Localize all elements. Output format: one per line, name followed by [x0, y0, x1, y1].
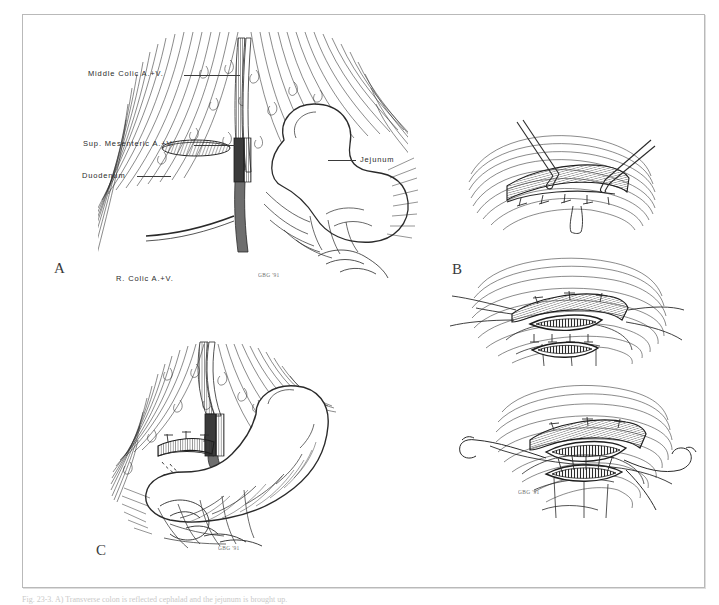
figure-caption: Fig. 23-3. A) Transverse colon is reflec… — [22, 595, 682, 605]
leader-middle-colic — [184, 75, 240, 76]
artist-signature-panel-b: GBG '91 — [518, 489, 540, 494]
jejunum-loop — [272, 104, 408, 242]
panel-b-vignette-bottom — [450, 378, 700, 543]
right-colic-vessels — [146, 216, 234, 241]
seromuscular-suture-line — [507, 165, 629, 202]
leader-duodenum — [137, 176, 171, 177]
panel-letter-c: C — [96, 543, 106, 558]
anastomosis-line-c — [158, 439, 214, 456]
leader-sup-mesenteric — [194, 145, 242, 146]
label-jejunum: Jejunum — [360, 156, 394, 164]
label-right-colic-vessels: R. Colic A.+V. — [116, 275, 174, 283]
small-bowel-coils — [318, 250, 388, 278]
leader-jejunum — [328, 160, 356, 161]
panel-letter-b: B — [452, 262, 462, 277]
panel-b-vignette-middle — [450, 248, 685, 368]
superior-mesenteric-vessel-trunk — [234, 138, 251, 252]
panel-letter-a: A — [54, 261, 65, 276]
panel-b-vignette-top — [455, 118, 670, 233]
artist-signature-panel-c: GBG '91 — [218, 545, 240, 550]
panel-c-illustration — [108, 338, 418, 566]
artist-signature-panel-a: GBG '91 — [258, 272, 280, 277]
middle-colic-trunk-c — [198, 342, 221, 416]
label-middle-colic-vessels: Middle Colic A.+V. — [88, 70, 164, 78]
label-superior-mesenteric-vessels: Sup. Mesenteric A.+V. — [83, 140, 175, 148]
inner-layer-sutures — [530, 334, 593, 342]
label-duodenum: Duodenum — [82, 172, 126, 180]
suture-tails — [570, 206, 582, 234]
enterotomy-upper — [530, 315, 602, 330]
